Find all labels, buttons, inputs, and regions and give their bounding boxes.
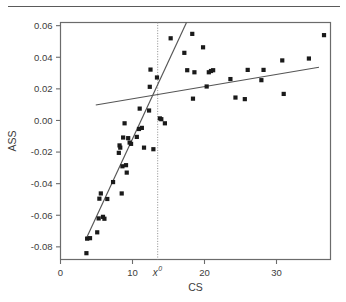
data-point-marker — [155, 75, 159, 79]
figure-container: 0.060.040.020.00-0.02-0.04-0.06-0.080102… — [0, 0, 346, 302]
data-point-marker — [163, 121, 167, 125]
data-point-marker — [111, 180, 115, 184]
data-point-marker — [280, 58, 284, 62]
data-point-marker — [129, 142, 133, 146]
y-axis-tick-label: -0.04 — [31, 178, 53, 189]
y-axis-tick-label: -0.08 — [31, 241, 53, 252]
data-point-marker — [97, 197, 101, 201]
data-point-marker — [140, 126, 144, 130]
data-point-marker — [322, 33, 326, 37]
data-point-marker — [233, 95, 237, 99]
data-point-marker — [185, 68, 189, 72]
data-point-marker — [138, 107, 142, 111]
data-point-marker — [159, 117, 163, 121]
data-point-marker — [117, 151, 121, 155]
threshold-label-superscript: 0 — [158, 265, 162, 272]
y-axis-title: ASS — [6, 130, 18, 151]
data-point-marker — [169, 36, 173, 40]
data-point-marker — [105, 197, 109, 201]
data-point-marker — [84, 251, 88, 255]
x-axis-tick-label: 30 — [271, 267, 282, 278]
data-point-marker — [102, 217, 106, 221]
data-point-marker — [151, 147, 155, 151]
y-axis-tick-label: 0.02 — [34, 83, 53, 94]
data-point-marker — [118, 146, 122, 150]
data-point-marker — [148, 67, 152, 71]
data-point-marker — [205, 84, 209, 88]
data-point-marker — [192, 70, 196, 74]
data-point-marker — [201, 45, 205, 49]
data-point-marker — [99, 191, 103, 195]
x-axis-tick-label: 0 — [58, 267, 63, 278]
data-point-marker — [126, 136, 130, 140]
data-point-marker — [282, 92, 286, 96]
data-point-marker — [243, 97, 247, 101]
data-point-marker — [135, 135, 139, 139]
data-point-marker — [88, 236, 92, 240]
data-point-marker — [148, 85, 152, 89]
data-point-marker — [121, 135, 125, 139]
data-point-marker — [228, 77, 232, 81]
y-axis-tick-label: -0.02 — [31, 146, 53, 157]
data-point-marker — [125, 171, 129, 175]
y-axis-tick-label: 0.04 — [34, 52, 53, 63]
scatter-plot: 0.060.040.020.00-0.02-0.04-0.06-0.080102… — [0, 0, 346, 302]
data-point-marker — [211, 68, 215, 72]
data-point-marker — [120, 164, 124, 168]
x-axis-tick-label: 20 — [199, 267, 210, 278]
data-point-marker — [259, 78, 263, 82]
x-axis-tick-label: 10 — [127, 267, 138, 278]
data-point-marker — [142, 146, 146, 150]
data-point-marker — [191, 97, 195, 101]
plot-frame — [61, 23, 331, 260]
data-point-marker — [124, 163, 128, 167]
data-point-marker — [246, 68, 250, 72]
data-point-marker — [261, 68, 265, 72]
data-point-marker — [97, 216, 101, 220]
data-point-marker — [122, 121, 126, 125]
y-axis-tick-label: 0.00 — [34, 115, 53, 126]
threshold-label: x0 — [152, 265, 163, 278]
y-axis-tick-label: -0.06 — [31, 210, 53, 221]
data-point-marker — [190, 32, 194, 36]
x-axis-title: CS — [188, 281, 203, 293]
data-point-marker — [95, 230, 99, 234]
data-point-marker — [147, 108, 151, 112]
data-point-marker — [120, 191, 124, 195]
y-axis-tick-label: 0.06 — [34, 20, 53, 31]
data-point-marker — [182, 51, 186, 55]
data-point-marker — [307, 56, 311, 60]
